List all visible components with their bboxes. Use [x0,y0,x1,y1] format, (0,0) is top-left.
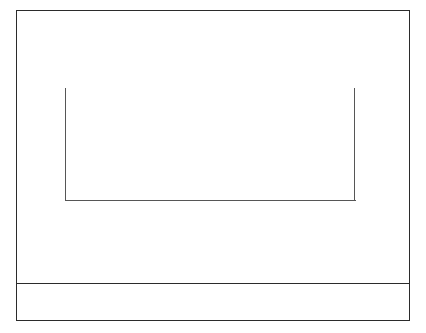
chart-plot-block [17,71,410,246]
chart-canvas [65,88,354,200]
x-axis-line [65,200,356,201]
figure-card [16,10,410,321]
section-divider [17,283,410,284]
y-axis-right-line [354,88,355,201]
